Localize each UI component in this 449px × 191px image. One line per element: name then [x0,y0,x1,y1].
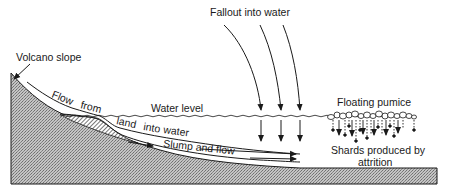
label-volcano-slope: Volcano slope [16,51,82,63]
label-flow-word-4: into [143,120,162,135]
label-shards-line1: Shards produced by [331,144,426,156]
flow-arrow-lower [250,158,296,159]
volcano-slope-pointer [14,64,30,79]
fallout-arrows [224,25,300,141]
sinking-shards [332,120,416,142]
label-shards-line2: attrition [358,156,393,168]
floating-pumice-clasts [328,111,417,120]
label-floating-pumice: Floating pumice [337,96,411,108]
label-fallout: Fallout into water [210,6,290,18]
label-flow-word-2: from [80,98,104,115]
label-water-level: Water level [151,102,203,114]
volcano-water-diagram: Volcano slope Flow from land into water … [0,0,449,191]
